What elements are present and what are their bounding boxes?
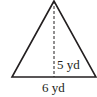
base-label: 6 yd (42, 81, 65, 94)
height-label: 5 yd (57, 58, 80, 71)
triangle-diagram: 5 yd 6 yd (0, 0, 97, 97)
